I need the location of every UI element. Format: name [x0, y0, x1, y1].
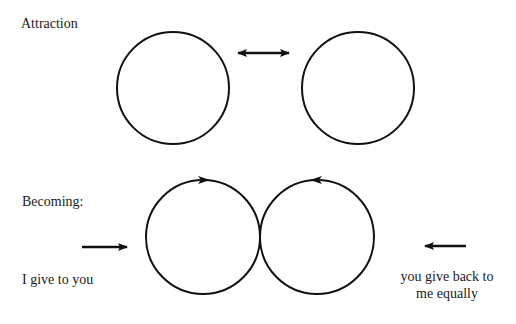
becoming-circle-right	[260, 180, 374, 294]
becoming-circle-left	[146, 180, 260, 294]
attraction-title: Attraction	[21, 15, 78, 32]
right-caption-line-1: you give back to	[394, 268, 500, 285]
right-caption: you give back to me equally	[394, 268, 500, 302]
left-caption: I give to you	[22, 271, 93, 288]
becoming-title: Becoming:	[22, 193, 83, 210]
right-caption-line-2: me equally	[394, 285, 500, 302]
attraction-circle-right	[302, 32, 414, 144]
attraction-circle-left	[117, 32, 229, 144]
